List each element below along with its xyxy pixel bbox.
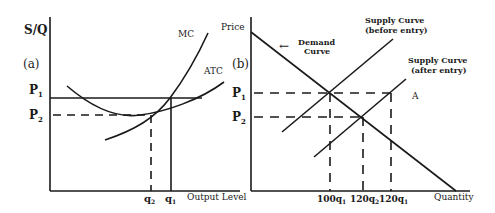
quantity-label-120q1: 120q1 xyxy=(379,194,408,205)
q2-label: q2 xyxy=(144,193,155,205)
q1-label: q1 xyxy=(165,193,176,205)
point-a-label: A xyxy=(411,91,419,101)
panel-b-p1-label: P1 xyxy=(232,86,246,102)
mc-label: MC xyxy=(178,29,194,39)
quantity-label-100q1: 100q1 xyxy=(317,194,346,205)
mc-curve xyxy=(105,33,208,140)
panel-a-p2-label: P2 xyxy=(29,108,43,124)
demand-arrow-icon: ← xyxy=(279,39,289,53)
panel-b-x-axis-label: Quantity xyxy=(434,192,474,202)
panel-b-p2-label: P2 xyxy=(232,110,246,126)
panel-a-p1-label: P1 xyxy=(29,83,43,99)
atc-curve xyxy=(67,82,224,116)
panel-a-y-axis-label: S/Q xyxy=(24,23,48,37)
atc-label: ATC xyxy=(203,66,223,76)
demand-label-line2: Curve xyxy=(304,46,330,56)
panel-a-tag: (a) xyxy=(23,57,40,71)
panel-b-tag: (b) xyxy=(232,57,249,71)
diagram-canvas: S/Q (a) P1 P2 MC ATC q2 q1 Output Level … xyxy=(0,0,495,213)
supply-after-label-line1: Supply Curve xyxy=(408,55,467,65)
panel-a-x-axis-label: Output Level xyxy=(187,192,247,202)
supply-before-label-line2: (before entry) xyxy=(365,25,428,35)
supply-after-label-line2: (after entry) xyxy=(411,65,467,75)
supply-curve-before-entry xyxy=(282,39,393,132)
quantity-label-120q2: 120q2 xyxy=(350,194,379,205)
panel-b-y-axis-label: Price xyxy=(221,22,245,32)
supply-before-label-line1: Supply Curve xyxy=(365,15,424,25)
